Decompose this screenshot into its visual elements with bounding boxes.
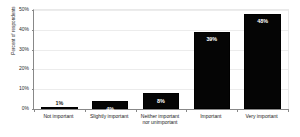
plot-area: 1%4%8%39%48% [33, 9, 289, 110]
bar-slot: 4% [85, 10, 136, 109]
x-tick-label-line: Slightly important [84, 113, 135, 119]
y-tick-label: 40% [3, 26, 29, 32]
bar-slot: 1% [34, 10, 85, 109]
x-tick-label-line: Not important [33, 113, 84, 119]
bar-value-label: 4% [93, 106, 128, 112]
bar[interactable]: 48% [244, 14, 281, 109]
x-tick-label: Slightly important [84, 113, 135, 119]
x-tick-label-line: nor unimportant [135, 119, 186, 125]
y-tick-label: 0% [3, 105, 29, 111]
bar-value-label: 1% [42, 100, 77, 106]
bar[interactable]: 4% [92, 101, 129, 109]
x-tick-mark [85, 109, 86, 112]
x-tick-label: Important [185, 113, 236, 119]
x-tick-label-line: Very important [236, 113, 287, 119]
x-tick-label: Not important [33, 113, 84, 119]
bar-slot: 39% [186, 10, 237, 109]
x-tick-label: Neither importantnor unimportant [135, 113, 186, 126]
x-tick-mark [288, 109, 289, 112]
bar-chart-figure: Percent of respondents 0%10%20%30%40%50%… [0, 0, 300, 137]
bar-value-label: 48% [245, 18, 280, 24]
x-tick-label-line: Important [185, 113, 236, 119]
bar-value-label: 8% [144, 98, 179, 104]
y-tick-label: 10% [3, 85, 29, 91]
bar-value-label: 39% [195, 36, 230, 42]
y-tick-label: 30% [3, 46, 29, 52]
x-tick-mark [34, 109, 35, 112]
x-tick-mark [186, 109, 187, 112]
bars-layer: 1%4%8%39%48% [34, 10, 288, 109]
x-tick-label: Very important [236, 113, 287, 119]
bar[interactable]: 8% [143, 93, 180, 109]
bar-slot: 8% [136, 10, 187, 109]
x-tick-mark [237, 109, 238, 112]
bar[interactable]: 1% [41, 107, 78, 109]
bar[interactable]: 39% [194, 32, 231, 109]
y-tick-label: 20% [3, 65, 29, 71]
y-tick-label: 50% [3, 6, 29, 12]
bar-slot: 48% [237, 10, 288, 109]
x-tick-mark [136, 109, 137, 112]
